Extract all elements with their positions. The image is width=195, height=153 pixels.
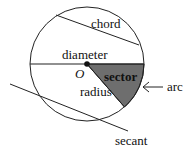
center-label: O xyxy=(75,66,85,81)
arrow-icon xyxy=(143,82,163,92)
radius-label: radius xyxy=(80,84,112,99)
diameter-label: diameter xyxy=(62,47,108,62)
secant-label: secant xyxy=(115,133,148,148)
arc-label: arc xyxy=(167,79,183,94)
sector-label: sector xyxy=(104,69,137,84)
circle-diagram: chord diameter O sector radius arc secan… xyxy=(0,0,195,153)
chord-label: chord xyxy=(91,16,121,31)
center-point xyxy=(84,61,90,67)
